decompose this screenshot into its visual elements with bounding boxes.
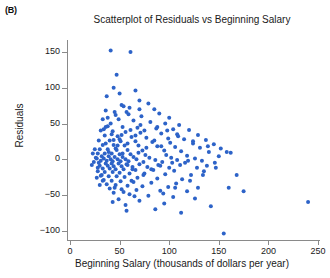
scatter-point [126,141,130,145]
scatter-point [168,141,172,145]
scatter-point [217,154,221,158]
scatter-point [123,175,127,179]
scatter-point [146,194,150,198]
scatter-point [169,156,173,160]
scatter-point [149,167,153,171]
scatter-point [189,173,193,177]
scatter-point [185,189,189,193]
scatter-point [140,149,144,153]
scatter-point [102,127,106,131]
scatter-point [100,173,104,177]
scatter-point [159,144,163,148]
scatter-point [179,211,183,215]
scatter-point [235,173,239,177]
scatter-point [135,176,139,180]
scatter-point [175,158,179,162]
scatter-point [170,161,174,165]
scatter-point [164,153,168,157]
scatter-point [115,73,119,77]
scatter-point [205,164,209,168]
scatter-point [176,134,180,138]
scatter-point [108,187,112,191]
scatter-point [91,151,95,155]
scatter-point [193,197,197,201]
scatter-point [242,189,246,193]
scatter-point [90,163,94,167]
scatter-point [212,142,216,146]
scatter-point [96,151,100,155]
scatter-point [133,139,137,143]
scatter-point [113,110,117,114]
scatter-point [104,109,108,113]
scatter-point [108,139,112,143]
scatter-point [138,123,142,127]
scatter-point [95,176,99,180]
scatter-point [128,192,132,196]
scatter-point [202,169,206,173]
scatter-point [107,174,111,178]
scatter-point [163,172,167,176]
scatter-point [134,157,138,161]
scatter-point [144,146,148,150]
scatter-point [172,169,176,173]
scatter-point [152,107,156,111]
scatter-point [137,99,141,103]
scatter-point [148,120,152,124]
scatter-point [126,148,130,152]
scatter-point [195,166,199,170]
scatter-point [219,146,223,150]
scatter-point [124,130,128,134]
scatter-point [153,207,157,211]
scatter-point [158,164,162,168]
scatter-point [98,183,102,187]
scatter-point [105,182,109,186]
scatter-point [135,126,139,130]
scatter-point [207,150,211,154]
scatter-point [108,166,112,170]
scatter-point [111,200,115,204]
scatter-point [105,94,109,98]
scatter-point [98,147,102,151]
scatter-point [171,127,175,131]
scatter-point [109,49,113,53]
scatter-point [101,179,105,183]
scatter-point [306,200,310,204]
scatter-point [96,169,100,173]
scatter-point [126,163,130,167]
scatter-point [117,161,121,165]
scatter-point [177,123,181,127]
scatter-point [112,86,116,90]
scatter-point [113,186,117,190]
scatter-point [122,104,126,108]
scatter-point [174,182,178,186]
scatter-point [201,173,205,177]
scatter-point [103,134,107,138]
scatter-point [187,128,191,132]
scatter-point [93,147,97,151]
scatter-point [118,137,122,141]
scatter-point [139,114,143,118]
scatter-point [94,156,98,160]
scatter-point [136,151,140,155]
scatter-point [118,171,122,175]
scatter-point [160,160,164,164]
scatter-point [97,139,101,143]
scatter-point [141,173,145,177]
scatter-point [161,192,165,196]
scatter-point [191,139,195,143]
scatter-point [128,106,132,110]
scatter-point [178,163,182,167]
scatter-point [144,136,148,140]
scatter-point [129,128,133,132]
scatter-point [103,170,107,174]
scatter-point [188,179,192,183]
scatter-point [155,125,159,129]
scatter-point [117,197,121,201]
scatter-point [133,134,137,138]
scatter-point [143,153,147,157]
scatter-point [166,185,170,189]
scatter-point [125,209,129,213]
scatter-point [134,188,138,192]
